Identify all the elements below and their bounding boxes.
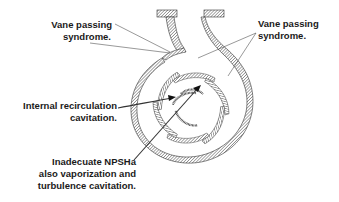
discharge-flange-left (157, 10, 177, 17)
impeller-inner-vanes (171, 88, 203, 128)
leader-vane-left-2 (90, 43, 170, 53)
pump-cavitation-diagram: Vane passing syndrome. Vane passing synd… (0, 0, 339, 202)
leader-vane-left-1 (115, 24, 170, 52)
arrowheads (168, 85, 201, 101)
label-line: Vane passing (258, 18, 319, 29)
label-vane-passing-left: Vane passing syndrome. (51, 19, 112, 42)
label-line: Internal recirculation (23, 100, 117, 111)
discharge-flange-right (204, 10, 224, 17)
label-line: Vane passing (51, 19, 112, 30)
label-line: syndrome. (258, 30, 306, 41)
label-line: turbulence cavitation. (38, 180, 136, 191)
label-internal-recirculation: Internal recirculation cavitation. (23, 100, 117, 123)
label-inadequate-npsha: Inadecuate NPSHa also vaporization and t… (38, 156, 137, 191)
leader-recirculation (118, 98, 172, 108)
casing-neck-left (166, 17, 184, 52)
impeller-vane (149, 100, 179, 141)
label-line: Inadecuate NPSHa (52, 156, 137, 167)
label-line: also vaporization and (39, 168, 136, 179)
impeller-vane (204, 75, 234, 116)
impeller (149, 70, 234, 147)
label-vane-passing-right: Vane passing syndrome. (258, 18, 319, 41)
label-line: syndrome. (63, 31, 111, 42)
label-line: cavitation. (70, 112, 117, 123)
